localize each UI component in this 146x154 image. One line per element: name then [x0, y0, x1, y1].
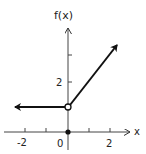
y-ticks — [68, 55, 72, 82]
y-axis-label: f(x) — [54, 9, 73, 22]
y-tick-label-2: 2 — [56, 77, 62, 88]
function-graph: f(x) x -2 0 2 2 — [0, 0, 146, 154]
x-tick-label-neg2: -2 — [17, 137, 27, 148]
closed-dot-point — [65, 129, 70, 134]
x-tick-label-0: 0 — [57, 138, 63, 149]
right-ray — [70, 45, 117, 105]
x-axis-label: x — [134, 126, 140, 137]
x-tick-label-2: 2 — [106, 138, 112, 149]
open-circle-point — [65, 104, 71, 110]
